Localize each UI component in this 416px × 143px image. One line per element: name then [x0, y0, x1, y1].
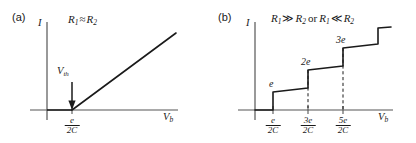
x-tick-label-b-0-num: e [266, 116, 281, 125]
x-tick-label-a-0-den: 2C [65, 125, 80, 135]
condition-b-rhs2-sub: 2 [350, 17, 354, 26]
condition-b-conjunction: or [306, 12, 319, 24]
step-label-b-1: 2e [301, 57, 310, 67]
panel-tag-b: (b) [218, 12, 231, 23]
x-tick-label-a-0-num: e [65, 116, 80, 125]
x-axis-label-a-sub: b [169, 115, 173, 124]
threshold-subscript-a: th [63, 70, 68, 78]
x-tick-label-b-1-den: 2C [301, 125, 316, 135]
x-tick-label-b-2: 5e 2C [336, 116, 351, 135]
coulomb-blockade-figure: (a) I Vb R1≈R2 Vth e 2C (b) I [0, 0, 416, 143]
condition-b-operator-1: ≫ [281, 12, 295, 24]
x-tick-label-b-1: 3e 2C [301, 116, 316, 135]
panel-a: (a) I Vb R1≈R2 Vth e 2C [0, 0, 208, 143]
condition-b-operator-2: ≪ [330, 12, 344, 24]
x-axis-label-b-sub: b [384, 115, 388, 124]
x-axis-label-b: Vb [378, 112, 388, 123]
curve-coulomb-staircase-b [255, 27, 391, 110]
y-axis-label-a: I [38, 18, 42, 29]
x-tick-label-b-1-num: 3e [301, 116, 316, 125]
threshold-voltage-label-a: Vth [57, 66, 69, 78]
condition-b-lhs2: R [319, 12, 326, 24]
condition-a-operator: ≈ [78, 13, 86, 25]
x-tick-label-b-0: e 2C [266, 116, 281, 135]
condition-a-rhs-sub: 2 [93, 18, 97, 27]
y-axis-label-b: I [246, 18, 250, 29]
condition-b-lhs: R [271, 12, 278, 24]
x-tick-label-a-0: e 2C [65, 116, 80, 135]
step-label-b-2: 3e [336, 35, 345, 45]
step-label-b-0: e [269, 79, 273, 89]
panel-a-plot [0, 0, 208, 143]
panel-tag-a: (a) [12, 12, 25, 23]
x-tick-label-b-0-den: 2C [266, 125, 281, 135]
panel-b: (b) I Vb R1≫R2orR1≪R2 e 2e 3e e 2C 3e 2C… [208, 0, 416, 143]
x-tick-label-b-2-num: 5e [336, 116, 351, 125]
condition-a-lhs: R [68, 13, 75, 25]
condition-label-a: R1≈R2 [68, 14, 97, 26]
x-tick-label-b-2-den: 2C [336, 125, 351, 135]
x-axis-label-a: Vb [163, 112, 173, 123]
condition-label-b: R1≫R2orR1≪R2 [271, 13, 354, 25]
curve-linear-ramp-a [72, 33, 176, 110]
